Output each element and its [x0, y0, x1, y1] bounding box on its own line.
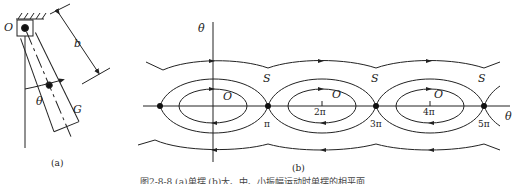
x-axis-label: θ [505, 110, 512, 123]
panel-a-label: (a) [51, 158, 63, 168]
separatrix-label-1: S [263, 72, 271, 85]
separatrix-5pi-up [484, 86, 500, 106]
center-label-2pi: O [332, 88, 341, 101]
angle-label: θ [36, 95, 43, 108]
rotating-orbit-bottom [138, 140, 500, 150]
tick-label-3pi: 3π [370, 119, 382, 129]
panel-b-label: (b) [292, 163, 305, 173]
pendulum-figure [15, 4, 110, 148]
figure-caption: 图2-8-8 (a)单摆 (b)大、中、小振幅运动时单摆的相平面 [140, 175, 365, 184]
tick-label-4pi: 4π [423, 107, 435, 117]
center-label-4pi: O [434, 88, 443, 101]
saddle-point-5pi [481, 103, 487, 109]
angle-arc [25, 80, 62, 89]
tick-label-2pi: 2π [314, 107, 326, 117]
saddle-point-pi [265, 103, 271, 109]
dimension-extension-bottom [82, 68, 110, 84]
pivot-label: O [4, 21, 13, 34]
cg-label: G [73, 103, 82, 116]
saddle-point-3pi [373, 103, 379, 109]
tick-label-pi: π [264, 119, 270, 129]
phase-plane [138, 22, 510, 162]
separatrix-label-3: S [478, 72, 486, 85]
pivot-point [22, 25, 29, 32]
separatrix-label-2: S [371, 72, 379, 85]
dimension-extension-top [50, 4, 70, 14]
rotating-orbit-top [146, 61, 500, 71]
tick-label-5pi: 5π [478, 119, 490, 129]
saddle-point-neg-pi [157, 103, 163, 109]
ceiling-hatch-icon [18, 13, 46, 19]
y-axis-label: θ̇ [198, 22, 205, 35]
length-label: b [74, 37, 81, 50]
center-label-0: O [223, 90, 232, 103]
